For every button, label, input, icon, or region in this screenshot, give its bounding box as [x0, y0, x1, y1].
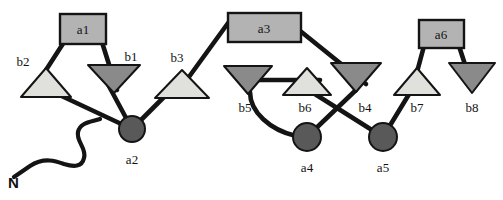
strand-triangle-b2 — [21, 68, 71, 97]
label-a3: a3 — [258, 21, 270, 36]
label-b5: b5 — [239, 100, 252, 115]
strand-triangle-b3 — [155, 70, 209, 98]
terminus-layer — [14, 119, 100, 177]
label-b2: b2 — [17, 54, 30, 69]
triangle-layer — [21, 63, 495, 98]
label-n-terminus: N — [8, 174, 19, 191]
label-a1: a1 — [77, 22, 89, 37]
label-b6: b6 — [299, 100, 313, 115]
label-b7: b7 — [411, 100, 425, 115]
label-b8: b8 — [466, 100, 479, 115]
label-b4: b4 — [359, 100, 373, 115]
helix-circle-a5 — [369, 123, 397, 151]
strand-triangle-b1 — [88, 65, 140, 93]
topology-diagram: a1a3a6a2a4a5b2b1b3b5b6b4b7b8N — [0, 0, 503, 200]
label-b3: b3 — [171, 50, 184, 65]
helix-circle-a2 — [119, 116, 145, 142]
strand-triangle-b4 — [331, 63, 381, 92]
strand-triangle-b7 — [394, 68, 440, 95]
connector-b5-tip-to-a4 — [250, 92, 296, 136]
strand-triangle-b8 — [449, 63, 495, 93]
label-a2: a2 — [126, 152, 138, 167]
label-a6: a6 — [435, 27, 448, 42]
label-a5: a5 — [377, 160, 389, 175]
helix-circle-a4 — [293, 123, 321, 151]
label-a4: a4 — [301, 160, 314, 175]
label-b1: b1 — [125, 49, 138, 64]
diagram-canvas: a1a3a6a2a4a5b2b1b3b5b6b4b7b8N — [0, 0, 503, 200]
n-terminus-wavy-line — [14, 119, 100, 177]
